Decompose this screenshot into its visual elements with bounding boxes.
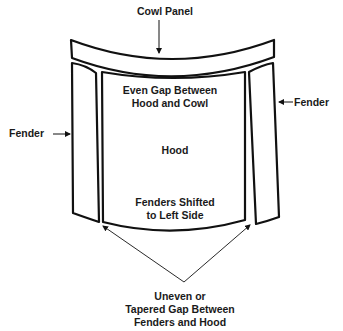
uneven-gap-label-line1: Uneven or	[110, 290, 250, 303]
uneven-gap-arrow-left	[103, 226, 184, 282]
even-gap-label-line2: Hood and Cowl	[110, 97, 230, 110]
uneven-gap-label-line2: Tapered Gap Between	[110, 303, 250, 316]
right-fender-label: Fender	[294, 96, 334, 109]
fenders-shifted-label-line2: to Left Side	[120, 209, 230, 222]
uneven-gap-arrow-right	[184, 225, 250, 282]
left-fender	[72, 63, 99, 222]
even-gap-label: Even Gap Between Hood and Cowl	[110, 84, 230, 110]
even-gap-label-line1: Even Gap Between	[110, 84, 230, 97]
fenders-shifted-label-line1: Fenders Shifted	[120, 196, 230, 209]
hood-fender-diagram	[0, 0, 343, 331]
cowl-panel	[71, 40, 274, 76]
uneven-gap-label-line3: Fenders and Hood	[110, 316, 250, 329]
fenders-shifted-label: Fenders Shifted to Left Side	[120, 196, 230, 222]
uneven-gap-label: Uneven or Tapered Gap Between Fenders an…	[110, 290, 250, 329]
left-fender-label: Fender	[9, 127, 49, 140]
cowl-panel-label: Cowl Panel	[115, 5, 215, 18]
right-fender	[249, 63, 279, 224]
hood-label: Hood	[145, 144, 205, 157]
